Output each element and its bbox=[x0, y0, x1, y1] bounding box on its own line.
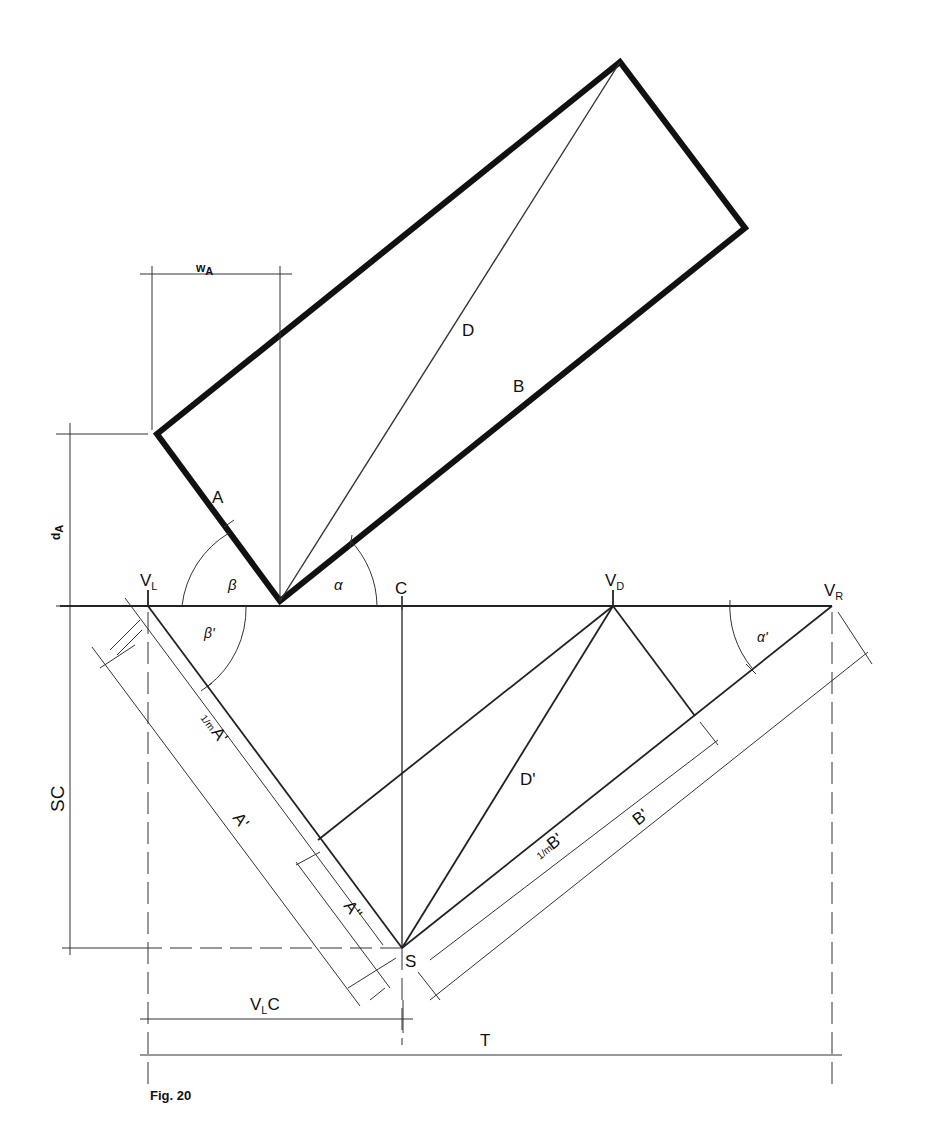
plan-rectangle bbox=[157, 62, 745, 601]
a-dim-tick-2 bbox=[100, 645, 135, 668]
c-label: C bbox=[395, 579, 407, 598]
a-extension-s bbox=[348, 958, 396, 988]
b-prime-scaled-label: 1/m B' bbox=[531, 829, 567, 863]
vl-label: VL bbox=[140, 571, 157, 592]
a-dim-tick-4 bbox=[370, 988, 385, 1000]
beta-prime-arc bbox=[208, 606, 246, 686]
d-prime-label: D' bbox=[520, 770, 536, 789]
vd-label: VD bbox=[605, 571, 624, 592]
alpha-label: α bbox=[334, 576, 343, 593]
vd-to-s-line-d-prime bbox=[402, 606, 613, 948]
svg-text:SC: SC bbox=[47, 786, 68, 812]
alpha-prime-arc bbox=[730, 600, 752, 668]
t-label: T bbox=[480, 1031, 490, 1050]
alpha-arc bbox=[350, 540, 377, 606]
sc-label: SC bbox=[47, 786, 68, 812]
b-prime-label: B' bbox=[629, 805, 652, 829]
svg-text:B': B' bbox=[629, 805, 652, 829]
beta-prime-label: β' bbox=[203, 625, 216, 641]
vl-to-s-line bbox=[148, 606, 402, 948]
side-a-label: A bbox=[212, 488, 224, 507]
svg-text:A': A' bbox=[229, 809, 253, 832]
a-dim-tick-3 bbox=[296, 852, 320, 865]
vr-label: VR bbox=[824, 581, 843, 602]
diagonal-d-label: D bbox=[462, 321, 474, 340]
a-prime-scaled-label: 1/m A' bbox=[197, 709, 232, 746]
alpha-prime-label: α' bbox=[757, 629, 769, 645]
b-extension-vr bbox=[838, 612, 872, 664]
a-double-prime-label: A'' bbox=[340, 897, 366, 923]
b-prime-dim bbox=[430, 652, 868, 1000]
vd-to-b-line bbox=[613, 606, 695, 716]
vlc-label: VLC bbox=[250, 995, 280, 1016]
b-prime-scaled-dim bbox=[430, 740, 718, 960]
b-extension-s bbox=[418, 972, 440, 1000]
side-b-label: B bbox=[513, 377, 524, 396]
s-label: S bbox=[405, 952, 416, 971]
a-extension-vl bbox=[110, 620, 140, 650]
svg-text:A'': A'' bbox=[340, 897, 366, 923]
svg-text:dA: dA bbox=[49, 525, 65, 540]
b-dim-tick bbox=[700, 722, 718, 745]
vd-to-a-line bbox=[318, 606, 613, 840]
wa-label: wA bbox=[195, 261, 213, 277]
perspective-construction-diagram: wA dA A B D β α β' α' C VL VD VR D' 1/m … bbox=[0, 0, 925, 1127]
diagonal-d-line bbox=[280, 62, 620, 601]
vr-to-s-line bbox=[402, 606, 832, 948]
figure-caption: Fig. 20 bbox=[150, 1088, 191, 1103]
a-double-prime-dim bbox=[296, 862, 390, 988]
a-prime-scaled-dim bbox=[125, 598, 383, 945]
beta-arc bbox=[182, 533, 229, 606]
a-dim-tick-1 bbox=[117, 630, 142, 655]
a-prime-dim bbox=[92, 647, 360, 1006]
da-label: dA bbox=[49, 525, 65, 540]
beta-label: β bbox=[227, 576, 237, 593]
a-prime-label: A' bbox=[229, 809, 253, 832]
